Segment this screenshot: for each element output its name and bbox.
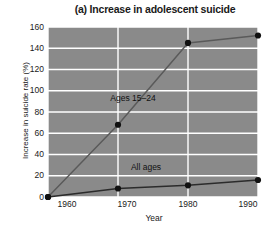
series-label-ages-15-24: Ages 15–24 <box>110 93 156 103</box>
series-label-all-ages: All ages <box>131 162 161 172</box>
data-point <box>115 185 121 191</box>
data-point <box>185 182 191 188</box>
data-point <box>45 194 51 200</box>
plot-area: Ages 15–24All ages <box>0 0 265 228</box>
data-point <box>115 122 121 128</box>
data-point <box>255 177 261 183</box>
figure-panel: (a) Increase in adolescent suicide Incre… <box>0 0 265 228</box>
data-point <box>255 32 261 38</box>
data-point <box>185 40 191 46</box>
